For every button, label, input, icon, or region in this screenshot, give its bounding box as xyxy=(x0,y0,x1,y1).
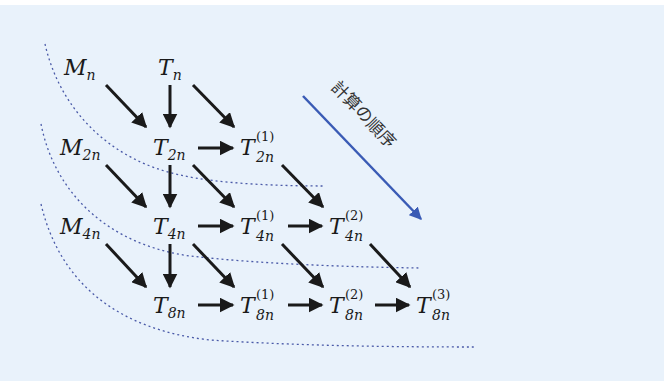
arrow-Tn-T12n xyxy=(193,85,234,127)
svg-text:(3): (3) xyxy=(432,287,450,302)
node-T2-4n: T (2) 4n xyxy=(329,208,363,244)
svg-text:4n: 4n xyxy=(255,228,274,244)
node-M-4n: M4n xyxy=(59,214,100,242)
separator-2 xyxy=(41,124,420,268)
svg-text:T: T xyxy=(240,214,257,239)
node-T1-2n: T (1) 2n xyxy=(240,129,274,165)
node-M-n: Mn xyxy=(63,55,96,83)
arrow-T4n-T18n xyxy=(193,244,234,287)
separator-3 xyxy=(41,204,476,347)
arrow-T24n-T38n xyxy=(370,244,410,287)
svg-text:T: T xyxy=(416,293,433,318)
svg-text:T: T xyxy=(329,214,346,239)
node-M-2n: M2n xyxy=(59,135,100,163)
arrow-M2n-T4n xyxy=(106,165,146,207)
svg-text:2n: 2n xyxy=(255,149,274,165)
svg-text:8n: 8n xyxy=(432,307,450,323)
svg-text:4n: 4n xyxy=(344,228,363,244)
node-T-4n: T4n xyxy=(153,214,186,242)
node-T2-8n: T (2) 8n xyxy=(329,287,363,323)
arrow-Mn-T2n xyxy=(106,85,146,127)
svg-text:(1): (1) xyxy=(256,208,274,223)
svg-text:(1): (1) xyxy=(256,287,274,302)
svg-text:8n: 8n xyxy=(256,307,274,323)
svg-text:(2): (2) xyxy=(345,208,363,223)
computation-order-label: 計算の順序 xyxy=(327,77,400,152)
svg-text:(2): (2) xyxy=(345,287,363,302)
svg-text:T: T xyxy=(240,293,257,318)
node-T1-8n: T (1) 8n xyxy=(240,287,274,323)
node-T3-8n: T (3) 8n xyxy=(416,287,450,323)
node-T1-4n: T (1) 4n xyxy=(240,208,274,244)
svg-text:8n: 8n xyxy=(345,307,363,323)
node-T-8n: T8n xyxy=(153,293,186,321)
svg-text:(1): (1) xyxy=(256,129,274,144)
svg-text:T: T xyxy=(329,293,346,318)
node-T-n: Tn xyxy=(158,55,182,83)
svg-text:T: T xyxy=(240,135,257,160)
node-T-2n: T2n xyxy=(153,135,186,163)
romberg-diagram: 計算の順序 Mn Tn M2n T2n T (1) 2n M4n T4n T (… xyxy=(0,0,664,389)
arrow-T2n-T14n xyxy=(193,165,234,207)
arrow-M4n-T8n xyxy=(106,244,146,287)
